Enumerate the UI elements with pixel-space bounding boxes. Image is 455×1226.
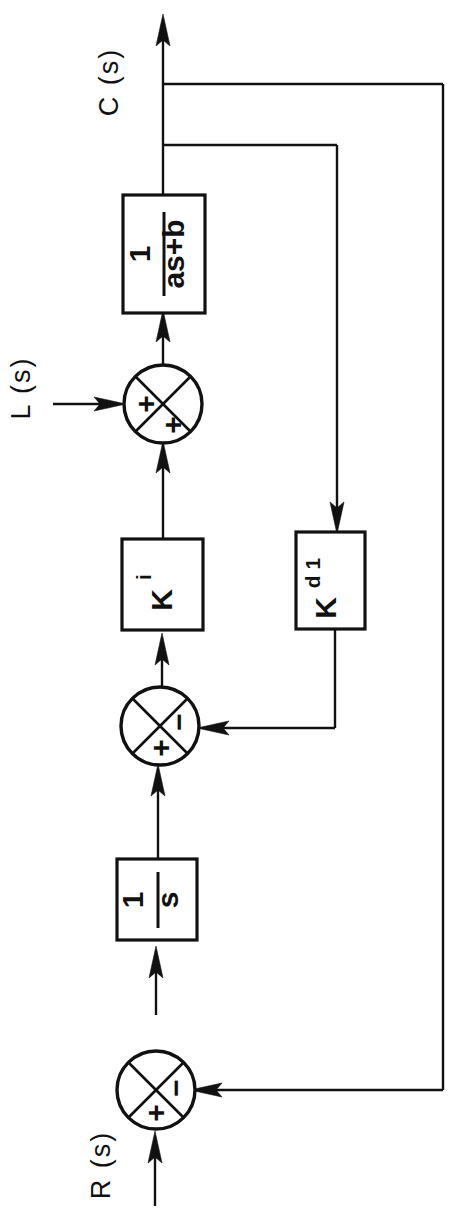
summing-junction-disturbance-sign-a: + xyxy=(129,395,162,413)
label-output-cs: C (s) xyxy=(94,48,124,116)
block-plant-denominator: as+b xyxy=(157,219,190,288)
block-diagram-canvas: 1 as+b K i K d 1 1 s + + xyxy=(0,0,455,1226)
label-reference-rs: R (s) xyxy=(86,1131,116,1199)
summing-junction-outer[interactable]: − + xyxy=(117,1051,195,1129)
block-gain-kd1[interactable]: K d 1 xyxy=(296,532,365,629)
block-gain-ki-rect[interactable] xyxy=(122,539,203,630)
label-disturbance-ls: L (s) xyxy=(6,357,36,420)
block-gain-ki-subscript: i xyxy=(132,574,155,580)
block-diagram-svg: 1 as+b K i K d 1 1 s + + xyxy=(0,0,455,1226)
block-integrator[interactable]: 1 s xyxy=(116,859,197,940)
summing-junction-disturbance-sign-b: + xyxy=(156,416,189,434)
block-integrator-numerator: 1 xyxy=(116,892,149,909)
block-gain-kd1-label: K xyxy=(309,597,342,619)
summing-junction-inner[interactable]: − + xyxy=(121,687,199,765)
block-plant-numerator: 1 xyxy=(123,246,156,263)
summing-junction-outer-sign-minus: − xyxy=(159,1079,192,1097)
summing-junction-disturbance[interactable]: + + xyxy=(124,365,202,443)
block-gain-kd1-subscript: d 1 xyxy=(301,558,324,589)
block-gain-ki[interactable]: K i xyxy=(122,539,203,630)
summing-junction-inner-sign-plus: + xyxy=(144,739,177,757)
block-gain-ki-label: K xyxy=(145,589,178,611)
summing-junction-inner-sign-minus: − xyxy=(162,713,195,731)
summing-junction-outer-sign-plus: + xyxy=(139,1104,172,1122)
block-integrator-denominator: s xyxy=(151,892,184,909)
block-plant[interactable]: 1 as+b xyxy=(123,195,205,313)
